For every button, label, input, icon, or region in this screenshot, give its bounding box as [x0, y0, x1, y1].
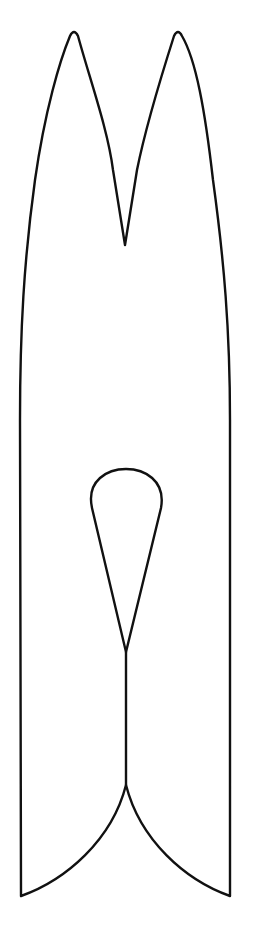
clothespin-drawing [0, 0, 254, 925]
teardrop-hole-outline [91, 469, 162, 652]
